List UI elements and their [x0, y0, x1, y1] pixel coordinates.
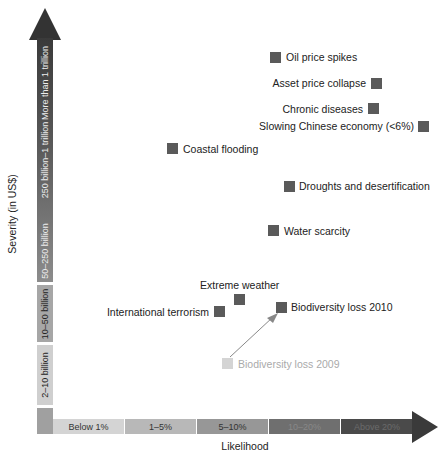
marker-asset — [371, 78, 382, 89]
y-segment-label: More than 1 trillion — [40, 46, 50, 120]
x-segment-label: Below 1% — [68, 422, 108, 432]
y-axis-title: Severity (in US$) — [6, 164, 18, 264]
marker-droughts — [284, 181, 295, 192]
label-asset: Asset price collapse — [273, 77, 366, 89]
marker-extreme — [234, 294, 245, 305]
y-segment-label: 250 billion–1 trillion — [40, 122, 50, 199]
label-coastal: Coastal flooding — [183, 143, 258, 155]
label-terror: International terrorism — [107, 306, 209, 318]
x-segment-label: Above 20% — [354, 422, 400, 432]
y-axis-arrowhead-icon — [27, 6, 63, 42]
x-segment-below-1: Below 1% — [53, 419, 124, 434]
x-segment-10-20: 10–20% — [269, 419, 340, 434]
marker-terror — [214, 306, 225, 317]
x-segment-label: 10–20% — [288, 422, 321, 432]
x-segment-above-20: Above 20% — [341, 419, 413, 434]
marker-bio2009 — [222, 358, 233, 369]
x-segment-label: 5–10% — [218, 422, 246, 432]
label-water: Water scarcity — [284, 225, 350, 237]
label-droughts: Droughts and desertification — [299, 180, 430, 192]
label-oil: Oil price spikes — [286, 51, 357, 63]
y-segment-label: 10–50 billion — [40, 288, 50, 339]
arrow-trend-icon — [226, 310, 282, 362]
marker-china — [418, 121, 429, 132]
label-china: Slowing Chinese economy (<6%) — [259, 120, 414, 132]
label-bio2009: Biodiversity loss 2009 — [238, 358, 340, 370]
label-extreme: Extreme weather — [200, 279, 279, 291]
x-axis-arrowhead-icon — [410, 410, 440, 444]
y-segment-label: 50–250 billion — [40, 223, 50, 279]
x-segment-label: 1–5% — [149, 422, 172, 432]
axis-corner — [37, 408, 53, 434]
y-segment-label: 2–10 billion — [40, 352, 50, 398]
x-segment-1-5: 1–5% — [125, 419, 196, 434]
y-segment-10-50: 10–50 billion — [37, 285, 53, 342]
marker-chronic — [368, 103, 379, 114]
marker-water — [268, 225, 279, 236]
y-segment-2-10: 2–10 billion — [37, 345, 53, 405]
marker-oil — [270, 52, 281, 63]
label-bio2010: Biodiversity loss 2010 — [291, 301, 393, 313]
label-chronic: Chronic diseases — [282, 103, 363, 115]
y-segment-upper: More than 1 trillion 250 billion–1 trill… — [37, 38, 53, 282]
x-segment-5-10: 5–10% — [197, 419, 268, 434]
marker-coastal — [167, 143, 178, 154]
x-axis-title: Likelihood — [200, 440, 290, 452]
